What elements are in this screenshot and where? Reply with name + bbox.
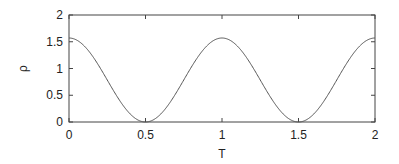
x-tick-label: 1.5 xyxy=(290,128,307,142)
y-axis-label: ρ xyxy=(16,65,30,72)
x-tick-label: 1 xyxy=(219,128,226,142)
y-tick-label: 1 xyxy=(56,62,63,76)
x-tick-labels: 00.511.52 xyxy=(66,128,379,142)
rho-curve xyxy=(69,38,375,122)
y-tick-label: 0.5 xyxy=(46,88,63,102)
y-tick-label: 0 xyxy=(56,115,63,129)
y-tick-labels: 00.511.52 xyxy=(46,8,63,129)
plot-frame xyxy=(69,15,375,122)
x-tick-label: 2 xyxy=(372,128,379,142)
x-tick-label: 0.5 xyxy=(137,128,154,142)
axis-ticks xyxy=(69,15,375,122)
x-tick-label: 0 xyxy=(66,128,73,142)
y-tick-label: 1.5 xyxy=(46,35,63,49)
rho-vs-T-line-chart: 00.511.52 00.511.52 T ρ xyxy=(0,0,399,164)
x-axis-label: T xyxy=(218,147,226,161)
y-tick-label: 2 xyxy=(56,8,63,22)
